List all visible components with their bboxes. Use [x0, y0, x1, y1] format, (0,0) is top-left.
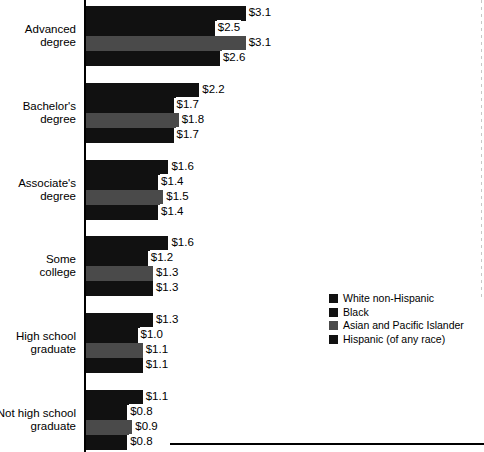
legend-item[interactable]: White non-Hispanic — [329, 292, 464, 306]
category-label: Not high school graduate — [0, 407, 76, 433]
bar-value-label: $2.6 — [222, 50, 246, 65]
bar-segment — [86, 160, 168, 175]
bar-segment — [86, 175, 158, 190]
bar-segment — [86, 405, 127, 420]
bar-segment — [86, 113, 179, 128]
category-label: Bachelor's degree — [0, 100, 76, 126]
bar-value-label: $1.7 — [176, 127, 200, 142]
bar-segment — [86, 358, 143, 373]
chart-legend: White non-HispanicBlackAsian and Pacific… — [329, 292, 464, 346]
bar-value-label: $0.8 — [129, 434, 153, 449]
bar-value-label: $3.1 — [248, 5, 272, 20]
bar-segment — [86, 281, 153, 296]
bar-value-label: $1.0 — [140, 327, 164, 342]
category-label: Some college — [0, 253, 76, 279]
bar-segment — [86, 435, 127, 450]
bar-value-label: $1.1 — [145, 357, 169, 372]
bar-segment — [86, 236, 168, 251]
bar-segment — [86, 328, 138, 343]
plot-area: $3.1$2.5$3.1$2.6$2.2$1.7$1.8$1.7$1.6$1.4… — [86, 0, 484, 452]
bar-value-label: $1.4 — [160, 174, 184, 189]
bar-segment — [86, 36, 246, 51]
category-label: High school graduate — [0, 330, 76, 356]
legend-swatch-icon — [329, 321, 338, 330]
bar-segment — [86, 98, 174, 113]
bar-value-label: $0.9 — [134, 419, 158, 434]
legend-item[interactable]: Black — [329, 306, 464, 320]
bar-segment — [86, 266, 153, 281]
bar-segment — [86, 313, 153, 328]
legend-swatch-icon — [329, 308, 338, 317]
bar-segment — [86, 21, 215, 36]
bar-segment — [86, 390, 143, 405]
category-label: Associate's degree — [0, 177, 76, 203]
bar-segment — [86, 420, 132, 435]
bar-segment — [86, 6, 246, 21]
bar-segment — [86, 251, 148, 266]
bar-value-label: $1.3 — [155, 265, 179, 280]
bar-value-label: $1.7 — [176, 97, 200, 112]
bar-value-label: $1.2 — [150, 250, 174, 265]
category-label: Advanced degree — [0, 23, 76, 49]
legend-label: Black — [343, 306, 369, 320]
legend-item[interactable]: Hispanic (of any race) — [329, 333, 464, 347]
legend-label: Hispanic (of any race) — [343, 333, 445, 347]
bar-segment — [86, 128, 174, 143]
bar-segment — [86, 343, 143, 358]
bar-value-label: $3.1 — [248, 35, 272, 50]
bar-value-label: $1.3 — [155, 280, 179, 295]
bar-value-label: $1.6 — [170, 235, 194, 250]
bar-value-label: $1.1 — [145, 389, 169, 404]
legend-swatch-icon — [329, 294, 338, 303]
legend-label: White non-Hispanic — [343, 292, 434, 306]
bar-value-label: $1.5 — [165, 189, 189, 204]
legend-item[interactable]: Asian and Pacific Islander — [329, 319, 464, 333]
bar-value-label: $1.8 — [181, 112, 205, 127]
bar-value-label: $2.2 — [201, 82, 225, 97]
legend-swatch-icon — [329, 335, 338, 344]
bar-value-label: $0.8 — [129, 404, 153, 419]
bar-segment — [86, 83, 199, 98]
bar-segment — [86, 51, 220, 66]
bar-value-label: $1.1 — [145, 342, 169, 357]
bar-value-label: $1.4 — [160, 204, 184, 219]
bar-value-label: $2.5 — [217, 20, 241, 35]
bar-segment — [86, 190, 163, 205]
bar-value-label: $1.3 — [155, 312, 179, 327]
legend-label: Asian and Pacific Islander — [343, 319, 464, 333]
bar-value-label: $1.6 — [170, 159, 194, 174]
bar-chart: Advanced degreeBachelor's degreeAssociat… — [0, 0, 484, 452]
bar-segment — [86, 205, 158, 220]
